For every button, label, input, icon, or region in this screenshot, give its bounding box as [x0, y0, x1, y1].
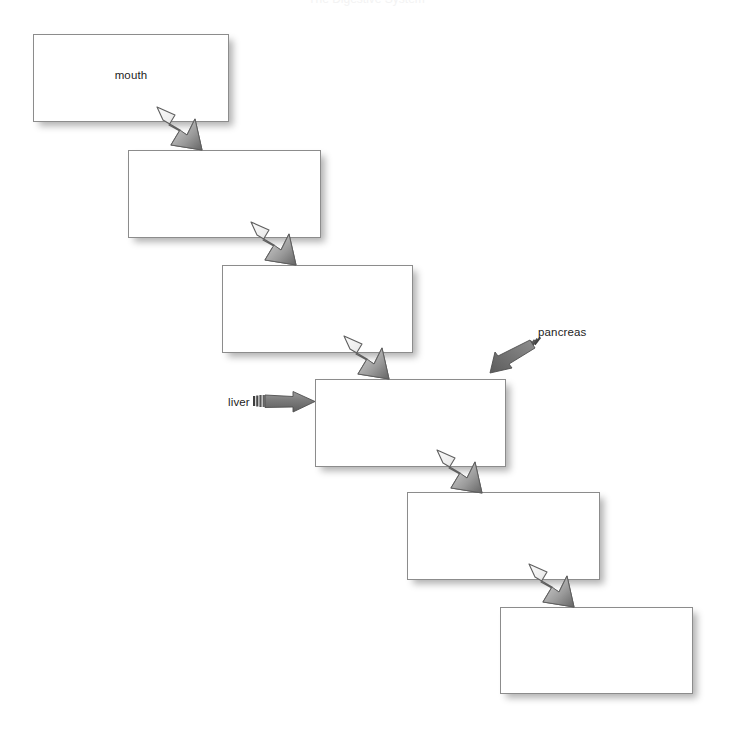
- liver-label: liver: [228, 396, 250, 408]
- box-small-intestine-blank[interactable]: [315, 379, 506, 467]
- liver-callout-arrow: [253, 390, 319, 416]
- pancreas-label: pancreas: [538, 326, 587, 338]
- pancreas-arrow-body: [490, 340, 535, 373]
- liver-arrow-body: [265, 392, 315, 413]
- box-rectum-blank[interactable]: [500, 607, 693, 694]
- liver-arrow-tail: [253, 395, 265, 407]
- box-large-intestine-blank[interactable]: [407, 492, 600, 580]
- diagram-canvas: The Digestive System: [0, 0, 733, 738]
- page-title-remnant: The Digestive System: [0, 0, 733, 6]
- box-stomach-blank[interactable]: [222, 265, 413, 353]
- box-esophagus-blank[interactable]: [128, 150, 321, 238]
- pancreas-callout-arrow: [484, 334, 546, 380]
- box-mouth[interactable]: mouth: [33, 34, 229, 122]
- box-mouth-label: mouth: [34, 69, 228, 81]
